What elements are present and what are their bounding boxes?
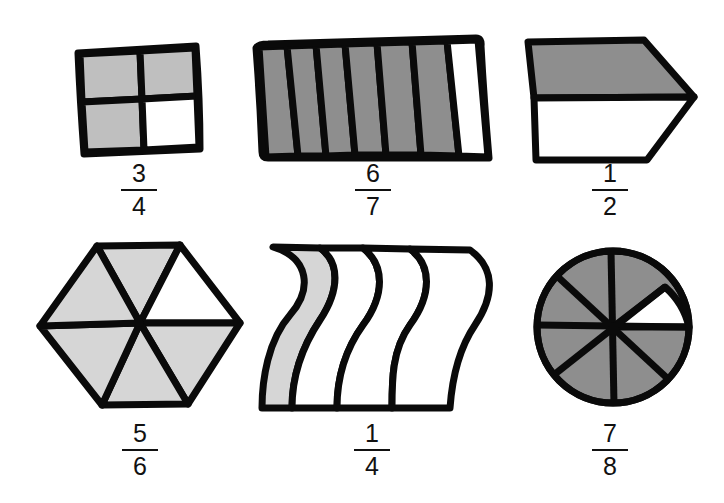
fraction-bar <box>592 449 628 451</box>
fraction-numerator: 7 <box>580 420 640 446</box>
fraction-bar <box>121 189 157 191</box>
figure-square-quarters <box>78 46 200 154</box>
pentagon-part-bottom <box>534 97 694 160</box>
fraction-numerator: 5 <box>110 420 170 446</box>
fraction-bar <box>592 189 628 191</box>
square-part-top-right <box>140 48 197 99</box>
fraction-numerator: 1 <box>342 420 402 446</box>
fraction-label-wave: 1 4 <box>342 420 402 479</box>
fraction-denominator: 8 <box>580 453 640 479</box>
figure-pentagon-halves <box>528 40 694 160</box>
square-part-top-left <box>80 51 142 102</box>
fraction-label-square: 3 4 <box>109 160 169 219</box>
fraction-denominator: 4 <box>109 193 169 219</box>
fraction-bar <box>354 449 390 451</box>
pentagon-part-top <box>528 40 694 98</box>
figure-wave-quarters <box>262 247 489 408</box>
square-part-bottom-right <box>142 96 199 150</box>
fraction-numerator: 1 <box>580 160 640 186</box>
figure-seven-strips <box>256 38 489 158</box>
fraction-bar <box>122 449 158 451</box>
fraction-denominator: 6 <box>110 453 170 479</box>
figure-hexagon-sixths <box>40 245 240 405</box>
fraction-denominator: 4 <box>342 453 402 479</box>
fraction-label-pentagon: 1 2 <box>580 160 640 219</box>
fraction-label-stripes: 6 7 <box>343 160 403 219</box>
fraction-bar <box>355 189 391 191</box>
fraction-label-circle: 7 8 <box>580 420 640 479</box>
fraction-label-hexagon: 5 6 <box>110 420 170 479</box>
square-part-bottom-left <box>82 99 144 152</box>
fraction-denominator: 7 <box>343 193 403 219</box>
fraction-numerator: 6 <box>343 160 403 186</box>
fraction-numerator: 3 <box>109 160 169 186</box>
figure-circle-eighths <box>537 251 689 404</box>
fraction-denominator: 2 <box>580 193 640 219</box>
